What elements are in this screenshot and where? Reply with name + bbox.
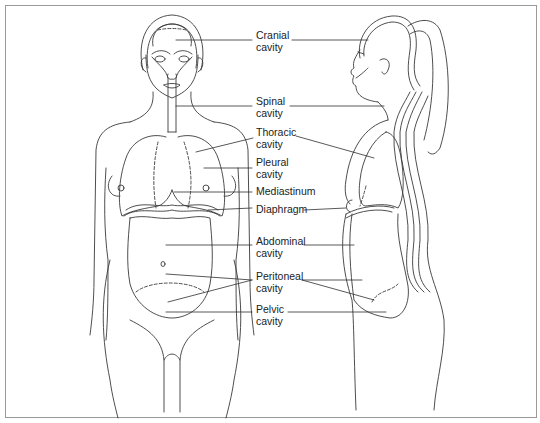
label-line2: cavity: [256, 283, 303, 295]
label-line2: cavity: [256, 248, 306, 260]
label-line2: cavity: [256, 169, 289, 181]
label-mediastinum: Mediastinum: [256, 186, 316, 198]
label-abdominal-cavity: Abdominal cavity: [256, 236, 306, 259]
label-line2: cavity: [256, 139, 296, 151]
label-thoracic-cavity: Thoracic cavity: [256, 127, 296, 150]
label-line1: Thoracic: [256, 127, 296, 139]
label-line2: cavity: [256, 316, 284, 328]
label-line2: cavity: [256, 108, 285, 120]
label-line2: cavity: [256, 42, 289, 54]
label-line1: Diaphragm: [256, 204, 307, 216]
label-pelvic-cavity: Pelvic cavity: [256, 304, 284, 327]
label-peritoneal-cavity: Peritoneal cavity: [256, 271, 303, 294]
label-line1: Cranial: [256, 30, 289, 42]
label-line1: Abdominal: [256, 236, 306, 248]
label-cranial-cavity: Cranial cavity: [256, 30, 289, 53]
side-view-figure: [343, 16, 449, 410]
label-diaphragm: Diaphragm: [256, 204, 307, 216]
label-pleural-cavity: Pleural cavity: [256, 157, 289, 180]
label-line1: Pelvic: [256, 304, 284, 316]
front-view-figure: [90, 15, 254, 418]
label-spinal-cavity: Spinal cavity: [256, 96, 285, 119]
label-line1: Spinal: [256, 96, 285, 108]
label-line1: Mediastinum: [256, 186, 316, 198]
label-line1: Peritoneal: [256, 271, 303, 283]
label-line1: Pleural: [256, 157, 289, 169]
